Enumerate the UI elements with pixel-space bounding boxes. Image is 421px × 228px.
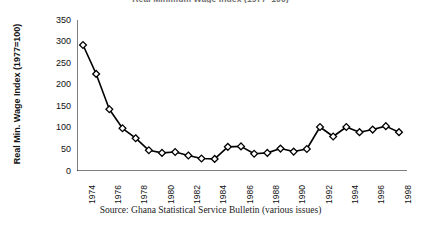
- data-point-marker: [238, 143, 245, 150]
- data-point-marker: [396, 129, 403, 136]
- x-tick-label: 1988: [272, 174, 281, 204]
- data-point-marker: [382, 123, 389, 130]
- data-point-marker: [303, 146, 310, 153]
- y-tick-label: 150: [43, 102, 71, 111]
- clipped-chart-title: Real Minimum Wage Index (1977=100): [0, 0, 421, 3]
- y-tick-label: 250: [43, 59, 71, 68]
- line-chart-svg: [77, 20, 407, 171]
- data-point-marker: [290, 148, 297, 155]
- wage-index-line: [83, 45, 399, 159]
- x-tick-label: 1994: [351, 174, 360, 204]
- data-point-marker: [93, 71, 100, 78]
- y-tick-label: 50: [43, 145, 71, 154]
- y-tick-label: 0: [43, 167, 71, 176]
- x-tick-label: 1992: [325, 174, 334, 204]
- data-point-marker: [369, 126, 376, 133]
- data-point-marker: [159, 149, 166, 156]
- data-point-marker: [264, 149, 271, 156]
- source-caption: Source: Ghana Statistical Service Bullet…: [0, 205, 421, 215]
- data-point-marker: [80, 42, 87, 49]
- x-tick-label: 1982: [193, 174, 202, 204]
- data-point-marker: [198, 155, 205, 162]
- wage-index-markers: [80, 42, 403, 163]
- y-axis-title: Real Min. Wage Index (1977=100): [10, 14, 24, 174]
- x-tick-label: 1976: [114, 174, 123, 204]
- chart-figure: Real Minimum Wage Index (1977=100) Real …: [0, 0, 421, 228]
- data-point-marker: [356, 129, 363, 136]
- data-point-marker: [251, 150, 258, 157]
- y-tick-label: 200: [43, 80, 71, 89]
- x-tick-label: 1998: [404, 174, 413, 204]
- y-tick-label: 300: [43, 37, 71, 46]
- data-point-marker: [185, 152, 192, 159]
- y-tick-label: 350: [43, 16, 71, 25]
- y-tick-label: 100: [43, 123, 71, 132]
- data-point-marker: [277, 145, 284, 152]
- x-tick-label: 1978: [140, 174, 149, 204]
- x-tick-label: 1974: [88, 174, 97, 204]
- plot-area: [77, 20, 407, 171]
- x-tick-label: 1980: [167, 174, 176, 204]
- x-tick-label: 1996: [377, 174, 386, 204]
- x-tick-label: 1984: [219, 174, 228, 204]
- data-point-marker: [172, 149, 179, 156]
- x-tick-label: 1986: [246, 174, 255, 204]
- x-tick-label: 1990: [298, 174, 307, 204]
